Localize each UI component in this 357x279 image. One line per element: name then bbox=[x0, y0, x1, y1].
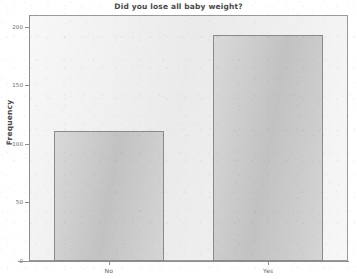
y-tick-label: 100 bbox=[1, 141, 23, 147]
y-tick-mark bbox=[25, 27, 29, 28]
bars-layer bbox=[29, 15, 348, 261]
x-tick-mark bbox=[268, 261, 269, 265]
y-axis-title: Frequency bbox=[5, 88, 14, 158]
x-axis-line bbox=[18, 261, 349, 262]
y-tick-label: 200 bbox=[1, 24, 23, 30]
y-tick-mark bbox=[25, 261, 29, 262]
y-tick-label: 50 bbox=[1, 199, 23, 205]
bar-yes bbox=[213, 35, 323, 261]
x-tick-label-yes: Yes bbox=[245, 267, 291, 274]
y-tick-mark bbox=[25, 85, 29, 86]
bar-chart: Did you lose all baby weight? Frequency … bbox=[0, 0, 357, 279]
y-tick-mark bbox=[25, 202, 29, 203]
x-tick-label-no: No bbox=[86, 267, 132, 274]
y-tick-mark bbox=[25, 144, 29, 145]
x-tick-mark bbox=[109, 261, 110, 265]
bar-no bbox=[54, 131, 164, 261]
y-tick-label: 150 bbox=[1, 82, 23, 88]
chart-title: Did you lose all baby weight? bbox=[0, 2, 357, 11]
y-axis-line bbox=[29, 15, 30, 262]
